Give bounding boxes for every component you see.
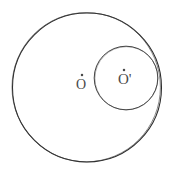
geometry-figure-svg: [0, 0, 174, 173]
geometry-figure-canvas: O O': [0, 0, 174, 173]
label-outer-center-o: O: [76, 78, 86, 92]
outer-circle-group: [12, 13, 162, 162]
center-point-o: [81, 74, 84, 77]
label-inner-center-o-prime: O': [118, 72, 132, 87]
